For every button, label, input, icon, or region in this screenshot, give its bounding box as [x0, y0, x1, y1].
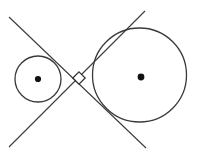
geometry-figure-canvas — [0, 0, 198, 154]
center-dots-group — [35, 74, 145, 83]
small-circle-center-dot — [35, 76, 41, 82]
geometry-diagram — [0, 0, 198, 154]
right-angle-marker — [73, 72, 85, 84]
circles-group — [15, 28, 187, 122]
large-circle-center-dot — [138, 74, 145, 81]
